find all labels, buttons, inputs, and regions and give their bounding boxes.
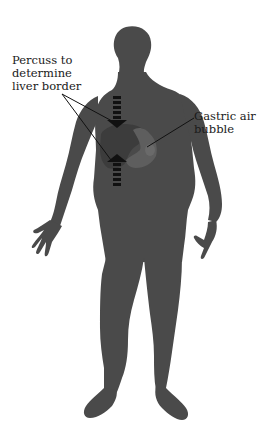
- gastric-air-bubble-label: Gastric air bubble: [194, 110, 256, 136]
- liver-label-line-3: liver border: [12, 80, 81, 93]
- liver-border-label: Percuss to determine liver border: [12, 54, 81, 93]
- anatomy-figure: Percuss to determine liver border Gastri…: [0, 0, 265, 440]
- gastric-label-line-2: bubble: [194, 123, 256, 136]
- gastric-air-bubble-icon: [145, 144, 155, 156]
